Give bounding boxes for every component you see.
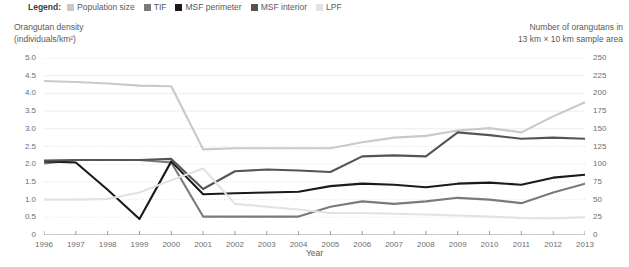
x-axis-title: Year — [0, 248, 629, 258]
y-axis-left-title-line2: (individuals/km²) — [14, 34, 83, 46]
legend-swatch-population-size — [67, 4, 74, 11]
legend-swatch-msf-interior — [251, 4, 258, 11]
legend-label-msf-interior: MSF interior — [261, 2, 307, 12]
y-axis-right-title-line1: Number of orangutans in — [518, 22, 623, 34]
legend-label-lpf: LPF — [326, 2, 342, 12]
y-axis-right-tick-label: 100 — [593, 159, 619, 168]
plot-area — [44, 58, 585, 235]
series-line-msf-interior — [44, 132, 585, 189]
y-axis-right-tick-label: 0 — [593, 230, 619, 239]
chart-canvas — [44, 58, 585, 235]
y-axis-left-tick-label: 1.0 — [10, 195, 36, 204]
y-axis-right-tick-label: 75 — [593, 177, 619, 186]
y-axis-right-tick-label: 175 — [593, 106, 619, 115]
legend-label-msf-perimeter: MSF perimeter — [185, 2, 241, 12]
y-axis-left-tick-label: 4.5 — [10, 71, 36, 80]
y-axis-left-tick-label: 2.0 — [10, 159, 36, 168]
y-axis-right-title-line2: 13 km × 10 km sample area — [518, 34, 623, 46]
series-line-lpf — [44, 168, 585, 218]
legend-label-tif: TIF — [154, 2, 167, 12]
legend-swatch-msf-perimeter — [175, 4, 182, 11]
chart-legend: Legend: Population size TIF MSF perimete… — [28, 2, 346, 12]
y-axis-left-tick-label: 3.5 — [10, 106, 36, 115]
legend-item-population-size: Population size — [67, 2, 135, 12]
y-axis-left-tick-label: 0 — [10, 230, 36, 239]
y-axis-right-tick-label: 225 — [593, 71, 619, 80]
y-axis-right-tick-label: 125 — [593, 142, 619, 151]
y-axis-left-title: Orangutan density (individuals/km²) — [14, 22, 83, 45]
legend-item-tif: TIF — [144, 2, 167, 12]
y-axis-right-title: Number of orangutans in 13 km × 10 km sa… — [518, 22, 623, 45]
y-axis-left-tick-label: 0.5 — [10, 212, 36, 221]
legend-swatch-tif — [144, 4, 151, 11]
y-axis-left-title-line1: Orangutan density — [14, 22, 83, 34]
legend-swatch-lpf — [316, 4, 323, 11]
y-axis-left-tick-label: 5.0 — [10, 53, 36, 62]
y-axis-right-tick-label: 150 — [593, 124, 619, 133]
y-axis-left-tick-label: 2.5 — [10, 142, 36, 151]
legend-label-population-size: Population size — [77, 2, 135, 12]
chart-figure: Legend: Population size TIF MSF perimete… — [0, 0, 629, 267]
y-axis-right-tick-label: 200 — [593, 88, 619, 97]
y-axis-left-tick-label: 1.5 — [10, 177, 36, 186]
legend-title: Legend: — [28, 2, 61, 12]
legend-item-msf-interior: MSF interior — [251, 2, 307, 12]
y-axis-left-tick-label: 4.0 — [10, 88, 36, 97]
y-axis-left-tick-label: 3.0 — [10, 124, 36, 133]
legend-item-lpf: LPF — [316, 2, 342, 12]
y-axis-right-tick-label: 25 — [593, 212, 619, 221]
y-axis-right-tick-label: 50 — [593, 195, 619, 204]
y-axis-right-tick-label: 250 — [593, 53, 619, 62]
legend-item-msf-perimeter: MSF perimeter — [175, 2, 241, 12]
series-line-population-size — [44, 81, 585, 149]
